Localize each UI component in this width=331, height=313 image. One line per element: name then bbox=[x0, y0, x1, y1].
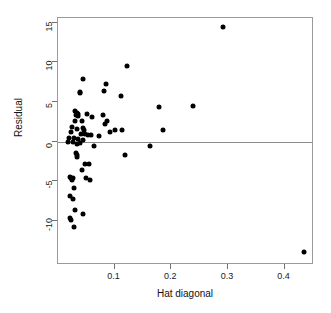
plot-area bbox=[57, 17, 313, 264]
data-point bbox=[72, 118, 77, 123]
data-point bbox=[72, 225, 77, 230]
data-point bbox=[81, 76, 86, 81]
x-axis-tick bbox=[227, 264, 228, 269]
x-axis: 0.10.20.30.4 bbox=[57, 264, 313, 288]
data-point bbox=[302, 250, 307, 255]
y-axis-label: Residual bbox=[13, 68, 24, 168]
x-axis-tick-label: 0.4 bbox=[277, 272, 290, 281]
data-point bbox=[79, 168, 84, 173]
data-point bbox=[107, 130, 112, 135]
data-point bbox=[161, 127, 166, 132]
y-axis-tick bbox=[52, 141, 57, 142]
data-point bbox=[78, 91, 83, 96]
data-point bbox=[89, 114, 94, 119]
data-point bbox=[79, 118, 84, 123]
data-point bbox=[221, 24, 226, 29]
data-point bbox=[92, 144, 97, 149]
data-point bbox=[122, 152, 127, 157]
scatter-plot-figure: 151050-5-10 0.10.20.30.4 Residual Hat di… bbox=[0, 0, 331, 313]
data-point bbox=[119, 94, 124, 99]
data-point bbox=[70, 175, 75, 180]
data-point bbox=[148, 144, 153, 149]
data-point bbox=[70, 197, 75, 202]
zero-reference-line bbox=[58, 142, 312, 143]
data-point bbox=[81, 212, 86, 217]
data-point bbox=[77, 141, 82, 146]
x-axis-tick-label: 0.3 bbox=[221, 272, 234, 281]
data-point bbox=[72, 186, 77, 191]
data-point bbox=[112, 127, 117, 132]
y-axis-tick bbox=[52, 101, 57, 102]
y-axis-tick-label: 15 bbox=[45, 21, 54, 31]
data-point bbox=[75, 155, 80, 160]
data-point bbox=[104, 81, 109, 86]
data-point bbox=[125, 63, 130, 68]
x-axis-label: Hat diagonal bbox=[57, 288, 313, 299]
x-axis-tick-label: 0.1 bbox=[107, 272, 120, 281]
data-point bbox=[69, 130, 74, 135]
x-axis-tick-label: 0.2 bbox=[164, 272, 177, 281]
y-axis-tick-label: 10 bbox=[45, 61, 54, 71]
x-axis-tick bbox=[170, 264, 171, 269]
y-axis-tick-label: 5 bbox=[45, 103, 54, 108]
data-point bbox=[72, 207, 77, 212]
data-point bbox=[120, 127, 125, 132]
x-axis-tick bbox=[114, 264, 115, 269]
x-axis-tick bbox=[284, 264, 285, 269]
data-point bbox=[103, 122, 108, 127]
data-point bbox=[102, 88, 107, 93]
data-point bbox=[101, 113, 106, 118]
data-point bbox=[69, 217, 74, 222]
y-axis: 151050-5-10 bbox=[0, 17, 57, 264]
data-point bbox=[190, 103, 195, 108]
data-point bbox=[87, 162, 92, 167]
data-point bbox=[88, 178, 93, 183]
data-point bbox=[88, 133, 93, 138]
y-axis-tick-label: -10 bbox=[45, 218, 54, 231]
data-point bbox=[96, 133, 101, 138]
data-point bbox=[157, 105, 162, 110]
y-axis-tick-label: -5 bbox=[45, 181, 54, 189]
y-axis-tick-label: 0 bbox=[45, 142, 54, 147]
